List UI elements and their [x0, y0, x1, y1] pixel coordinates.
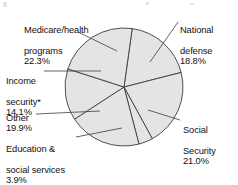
slice-label-national-defense-line1: National	[180, 25, 213, 35]
slice-value-social-security: 21.0%	[183, 156, 216, 167]
slice-label-medicare-line2: programs	[24, 46, 62, 56]
scan-artifact-2	[146, 2, 149, 5]
slice-label-national-defense-line2: defense	[180, 46, 212, 56]
slice-label-education-line2: social services	[6, 165, 65, 175]
slice-value-education: 3.9%	[6, 175, 65, 185]
slice-label-medicare-line1: Medicare/health	[24, 25, 89, 35]
slice-label-income-security-line1: Income	[6, 76, 36, 86]
slice-label-education: Education & social services 3.9%	[6, 133, 65, 185]
slice-label-education-line1: Education &	[6, 144, 55, 154]
pie-chart-figure: Medicare/health programs 22.3% National …	[0, 0, 238, 185]
slice-label-other-line1: Other	[6, 113, 29, 123]
slice-value-national-defense: 18.8%	[180, 56, 213, 67]
slice-label-social-security-line1: Social	[183, 125, 208, 135]
scan-artifact-1	[3, 2, 7, 7]
scan-artifact-3	[190, 3, 194, 5]
slice-label-national-defense: National defense 18.8%	[180, 14, 213, 78]
slice-label-social-security: Social Security 21.0%	[183, 114, 216, 178]
slice-label-social-security-line2: Security	[183, 146, 216, 156]
